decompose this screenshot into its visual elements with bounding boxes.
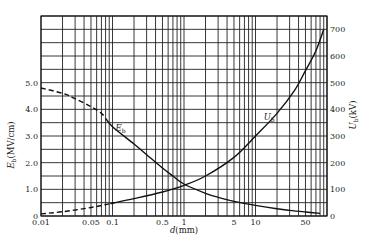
y-right-tick-label: 600	[330, 52, 345, 61]
y-right-tick-label: 700	[330, 25, 345, 34]
y-left-tick-label: 1.0	[25, 185, 38, 194]
ub-curve-dashed	[41, 203, 114, 214]
curves	[41, 29, 324, 214]
y-right-tick-label: 400	[330, 105, 345, 114]
y-axis-left-label: Eb(MV/cm)	[6, 121, 17, 169]
x-tick-label: 0.05	[82, 218, 100, 227]
ub-curve	[111, 29, 324, 203]
y-left-tick-label: 3.0	[25, 132, 38, 141]
x-tick-label: 0.1	[106, 218, 119, 227]
x-tick-label: 0.5	[156, 218, 169, 227]
eb-curve	[106, 118, 321, 213]
y-left-tick-label: 2.0	[25, 159, 38, 168]
y-right-tick-label: 200	[330, 159, 345, 168]
y-right-tick-label: 300	[330, 132, 345, 141]
chart-svg: 0.010.050.10.515105001.02.03.04.05.00100…	[0, 0, 370, 251]
y-right-tick-label: 0	[330, 212, 335, 221]
x-tick-label: 50	[300, 218, 310, 227]
y-left-tick-label: 4.0	[25, 105, 38, 114]
curve-label: Eb	[114, 123, 125, 134]
y-left-tick-label: 5.0	[25, 79, 38, 88]
y-left-tick-label: 0	[33, 212, 38, 221]
x-axis-label: d(mm)	[170, 225, 198, 235]
curve-label: Ub	[264, 112, 275, 123]
x-tick-label: 5	[231, 218, 236, 227]
breakdown-chart: 0.010.050.10.515105001.02.03.04.05.00100…	[0, 0, 370, 251]
y-axis-right-label: Ub(kV)	[348, 101, 359, 130]
x-tick-label: 10	[250, 218, 260, 227]
y-right-tick-label: 500	[330, 79, 345, 88]
eb-curve-dashed	[41, 88, 106, 118]
y-right-tick-label: 100	[330, 185, 345, 194]
